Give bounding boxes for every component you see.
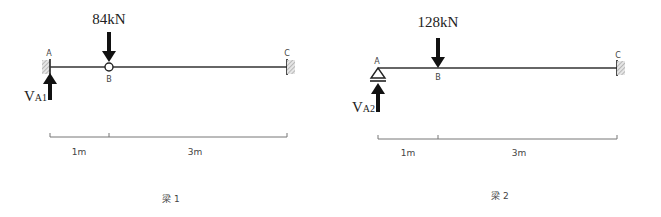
load-label: 128kN xyxy=(418,14,459,30)
load-arrow-down-icon xyxy=(102,32,116,62)
pin-support-a-icon xyxy=(370,68,386,81)
dimension-label-ab: 1m xyxy=(401,148,416,158)
load-arrow-down-icon xyxy=(431,38,445,68)
beam-diagrams: A B C 84kN VA1 1m 3m 梁 1 xyxy=(0,0,661,217)
fixed-support-c-hatch xyxy=(287,60,295,74)
beam-caption: 梁 1 xyxy=(162,193,180,204)
hinge-b-icon xyxy=(105,63,113,71)
dimension-line xyxy=(50,133,287,137)
point-label-a: A xyxy=(374,57,380,66)
fixed-support-c-hatch xyxy=(617,61,625,75)
point-label-b: B xyxy=(435,73,441,82)
point-label-c: C xyxy=(284,49,290,58)
dimension-label-bc: 3m xyxy=(512,148,527,158)
beam-1: A B C 84kN VA1 1m 3m 梁 1 xyxy=(24,11,295,204)
load-label: 84kN xyxy=(92,11,126,27)
fixed-support-a-hatch xyxy=(42,60,50,74)
dimension-label-bc: 3m xyxy=(188,147,203,157)
beam-caption: 梁 2 xyxy=(491,190,509,201)
point-label-b: B xyxy=(106,75,112,84)
dimension-label-ab: 1m xyxy=(72,147,87,157)
dimension-line xyxy=(378,135,617,139)
reaction-label: VA1 xyxy=(24,88,47,104)
point-label-c: C xyxy=(615,51,621,60)
reaction-label: VA2 xyxy=(352,99,375,115)
beam-2: A B C 128kN VA2 1m 3m 梁 2 xyxy=(352,14,625,201)
point-label-a: A xyxy=(46,49,52,58)
